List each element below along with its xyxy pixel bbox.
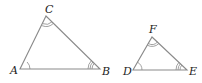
angle-a-single-arc <box>27 62 30 69</box>
triangle-abc-outline <box>20 16 100 69</box>
angle-c-double-arc <box>42 22 53 27</box>
similar-triangles-diagram: C A B F D E <box>0 0 202 83</box>
vertex-label-c: C <box>45 3 54 16</box>
vertex-label-a: A <box>9 64 18 77</box>
vertex-label-b: B <box>101 65 110 78</box>
triangle-def: F D E <box>122 23 197 78</box>
triangle-abc: C A B <box>9 3 110 78</box>
vertex-label-e: E <box>188 65 197 78</box>
vertex-label-d: D <box>122 65 132 78</box>
angle-d-single-arc <box>138 62 143 70</box>
angle-e-triple-arc <box>176 62 182 70</box>
vertex-label-f: F <box>148 23 157 36</box>
